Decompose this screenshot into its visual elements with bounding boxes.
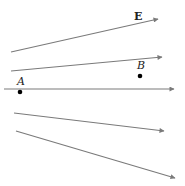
point-A: [18, 90, 23, 95]
point-label-A: A: [16, 75, 25, 88]
field-line-1: [11, 19, 158, 52]
point-B: [138, 74, 143, 79]
diagram-canvas: AB E: [0, 0, 185, 186]
field-label-E: E: [134, 10, 142, 23]
field-diagram: AB E: [0, 0, 185, 186]
point-label-B: B: [136, 59, 145, 72]
field-lines: [4, 19, 175, 178]
field-line-4: [14, 113, 164, 131]
field-line-5: [16, 131, 175, 178]
